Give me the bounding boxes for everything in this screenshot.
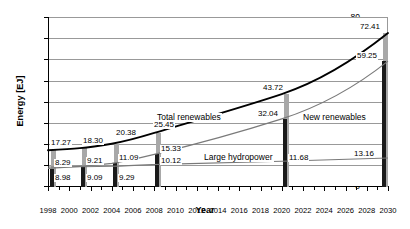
x-tick-2026 — [346, 187, 347, 191]
x-tick-2011 — [186, 187, 187, 190]
chart-figure: Energy [EJ] Year 80 70 60 50 40 30 20 10… — [0, 0, 410, 229]
x-tick-2013 — [207, 187, 208, 190]
data-label-hydro-2001: 9.09 — [86, 174, 104, 182]
data-label-total-2001: 18.30 — [82, 137, 104, 145]
data-label-hydro-2008: 10.12 — [160, 157, 182, 165]
data-label-hydro-1998: 8.98 — [54, 174, 72, 182]
x-tick-2005 — [122, 187, 123, 190]
data-label-new-2001: 9.21 — [86, 157, 104, 165]
x-tick-2025 — [335, 187, 336, 190]
x-tick-2028 — [367, 187, 368, 191]
x-tick-2008 — [154, 187, 155, 191]
series-label-large-hydropower: Large hydropower — [203, 153, 274, 162]
x-tick-2009 — [165, 187, 166, 190]
plot-area: 17.27 18.30 20.38 25.45 43.72 72.41 8.29… — [48, 17, 388, 187]
x-tick-2019 — [271, 187, 272, 190]
x-tick-2014 — [218, 187, 219, 191]
x-tick-2002 — [91, 187, 92, 191]
x-tick-2024 — [324, 187, 325, 191]
x-tick-2018 — [261, 187, 262, 191]
x-tick-2001 — [80, 187, 81, 190]
data-label-new-2004: 11.09 — [118, 154, 139, 162]
x-tick-2006 — [133, 187, 134, 191]
x-tick-2021 — [292, 187, 293, 190]
x-tick-1999 — [59, 187, 60, 190]
x-tick-2000 — [69, 187, 70, 191]
data-label-total-1998: 17.27 — [50, 139, 72, 147]
data-label-hydro-2030: 13.16 — [353, 150, 375, 158]
data-label-new-1998: 8.29 — [54, 159, 72, 167]
x-tick-2015 — [229, 187, 230, 190]
x-tick-label-2030: 2030 — [376, 207, 400, 215]
curve-total — [48, 33, 388, 150]
x-tick-2003 — [101, 187, 102, 190]
x-tick-2030 — [388, 187, 389, 191]
x-tick-2017 — [250, 187, 251, 190]
series-label-total-renewables: Total renewables — [156, 113, 222, 122]
x-tick-2022 — [303, 187, 304, 191]
y-axis-title: Energy [EJ] — [15, 61, 25, 141]
data-label-hydro-2004: 9.29 — [118, 174, 136, 182]
x-tick-2004 — [112, 187, 113, 191]
x-tick-2007 — [144, 187, 145, 190]
x-tick-1998 — [48, 187, 49, 191]
x-tick-2027 — [356, 187, 357, 190]
series-label-new-renewables: New renewables — [302, 113, 367, 122]
x-tick-2012 — [197, 187, 198, 191]
x-tick-2020 — [282, 187, 283, 191]
data-label-new-2008: 15.33 — [160, 145, 182, 153]
x-tick-2010 — [176, 187, 177, 191]
x-tick-2016 — [239, 187, 240, 191]
data-label-total-2020: 43.72 — [262, 84, 284, 92]
data-label-hydro-2020: 11.68 — [288, 154, 309, 162]
x-tick-2029 — [377, 187, 378, 190]
data-label-new-2030: 59.25 — [356, 52, 378, 60]
x-tick-2023 — [314, 187, 315, 190]
data-label-total-2030: 72.41 — [359, 23, 381, 31]
data-label-new-2020: 32.04 — [257, 110, 279, 118]
data-label-total-2004: 20.38 — [115, 129, 137, 137]
data-label-total-2008: 25.45 — [153, 121, 175, 129]
